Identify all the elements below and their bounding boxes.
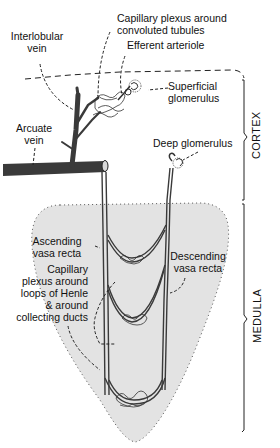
superficial-glomerulus — [118, 80, 141, 100]
label-deep-glomerulus: Deep glomerulus — [153, 137, 232, 149]
cortex-brace — [242, 80, 247, 200]
label-cortex: CORTEX — [250, 119, 262, 159]
arcuate-vein — [3, 161, 108, 177]
medulla-brace — [242, 204, 247, 432]
label-capillary-plexus-tubules: Capillary plexus around convoluted tubul… — [117, 12, 227, 36]
region-braces — [242, 80, 247, 432]
label-medulla: MEDULLA — [251, 293, 263, 343]
deep-glomerulus — [169, 153, 183, 168]
label-efferent-arteriole: Efferent arteriole — [127, 39, 204, 51]
nephron-vasculature-diagram — [0, 0, 280, 448]
cortex-boundary — [25, 70, 244, 79]
label-ascending-vasa-recta: Ascending vasa recta — [28, 235, 86, 259]
label-capillary-plexus-henle: Capillary plexus around loops of Henle &… — [10, 263, 88, 323]
label-interlobular-vein: Interlobular vein — [10, 30, 64, 54]
label-descending-vasa-recta: Descending vasa recta — [168, 250, 228, 274]
interlobular-vein — [62, 88, 100, 165]
label-superficial-glomerulus: Superficial glomerulus — [168, 80, 219, 104]
label-arcuate-vein: Arcuate vein — [12, 122, 56, 146]
